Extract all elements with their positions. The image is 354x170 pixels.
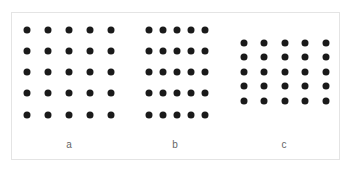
dot (241, 83, 248, 90)
dot (24, 27, 31, 34)
dot (87, 112, 94, 119)
dot (24, 48, 31, 55)
dot (323, 54, 330, 61)
dot (302, 98, 309, 105)
dot (302, 69, 309, 76)
dot (160, 90, 167, 97)
dot (188, 27, 195, 34)
dot (66, 112, 73, 119)
dot (45, 27, 52, 34)
dot (261, 40, 268, 47)
dot (261, 98, 268, 105)
dot (66, 69, 73, 76)
dot (323, 83, 330, 90)
dot (282, 54, 289, 61)
dot (188, 69, 195, 76)
dot (174, 48, 181, 55)
dot (241, 40, 248, 47)
dot (146, 90, 153, 97)
dot (188, 48, 195, 55)
dot (241, 54, 248, 61)
dot (146, 48, 153, 55)
dot (202, 69, 209, 76)
dot (66, 48, 73, 55)
dot (202, 27, 209, 34)
dot (160, 48, 167, 55)
dot (160, 27, 167, 34)
dot (323, 69, 330, 76)
dot (302, 83, 309, 90)
dot (261, 83, 268, 90)
dot (282, 98, 289, 105)
dot (282, 83, 289, 90)
dot (45, 48, 52, 55)
dot (160, 112, 167, 119)
dot (323, 98, 330, 105)
panel-label-a: a (66, 139, 72, 150)
dot (45, 69, 52, 76)
dot (87, 90, 94, 97)
dot (202, 90, 209, 97)
dot (241, 69, 248, 76)
dot (302, 54, 309, 61)
dot (24, 90, 31, 97)
panel-label-c: c (282, 139, 287, 150)
dot (261, 69, 268, 76)
dot (202, 112, 209, 119)
dot (87, 69, 94, 76)
dot (302, 40, 309, 47)
dot (146, 27, 153, 34)
dot (282, 40, 289, 47)
dot (108, 90, 115, 97)
dot (282, 69, 289, 76)
dot (174, 112, 181, 119)
dot (108, 69, 115, 76)
dot (261, 54, 268, 61)
dot (108, 48, 115, 55)
dot (174, 90, 181, 97)
dot (66, 27, 73, 34)
dot (146, 69, 153, 76)
panel-label-b: b (172, 139, 178, 150)
dot (87, 48, 94, 55)
dot (202, 48, 209, 55)
dot (188, 90, 195, 97)
dot (45, 90, 52, 97)
dot (87, 27, 94, 34)
dot-grid-diagram: a b c (0, 0, 354, 170)
dot (174, 27, 181, 34)
dot (45, 112, 52, 119)
dot (66, 90, 73, 97)
dot (24, 69, 31, 76)
dot (108, 112, 115, 119)
dot (188, 112, 195, 119)
dot (108, 27, 115, 34)
dot (323, 40, 330, 47)
dot (160, 69, 167, 76)
dot (241, 98, 248, 105)
dot (24, 112, 31, 119)
dot (146, 112, 153, 119)
dot (174, 69, 181, 76)
